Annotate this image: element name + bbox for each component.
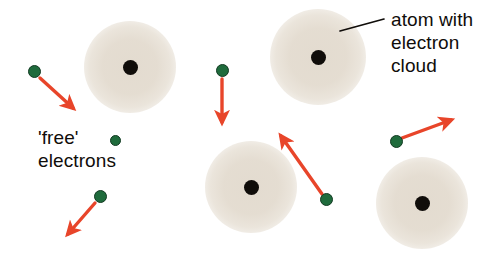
- atom-top-right-nucleus: [311, 50, 326, 65]
- arrow-upper-left: [40, 78, 73, 108]
- electron-right: [390, 135, 403, 148]
- atom-top-left-nucleus: [123, 60, 138, 75]
- atom-bottom-center-nucleus: [244, 180, 259, 195]
- electron-lower-center: [320, 193, 333, 206]
- free-electrons-label: 'free' electrons: [38, 126, 116, 172]
- electron-lower-left: [94, 190, 107, 203]
- atom-with-electron-cloud-label: atom with electron cloud: [391, 8, 473, 77]
- electron-upper-left: [28, 65, 41, 78]
- arrow-lower-left: [68, 203, 95, 234]
- atom-bottom-right-nucleus: [415, 196, 430, 211]
- electron-cloud-diagram: atom with electron cloud 'free' electron…: [0, 0, 483, 257]
- arrow-right: [402, 120, 451, 138]
- electron-upper-center: [216, 64, 229, 77]
